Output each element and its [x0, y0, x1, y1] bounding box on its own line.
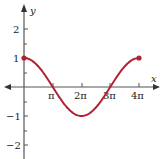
x-axis-label: x: [151, 73, 157, 84]
x-axis-right-arrow-icon: [153, 84, 160, 90]
x-tick-label-2pi: 2π: [74, 90, 87, 101]
chart: y x 2 1 −1 −2 π 2π 3π 4π: [0, 0, 162, 159]
start-point-marker: [21, 55, 26, 60]
y-tick-label-neg2: −2: [6, 140, 21, 151]
y-axis-label: y: [29, 5, 36, 16]
y-tick-label-neg1: −1: [6, 111, 21, 122]
y-tick-label-1: 1: [13, 53, 19, 64]
y-tick-label-2: 2: [13, 24, 19, 35]
x-tick-label-pi: π: [48, 90, 55, 101]
y-axis-arrow-icon: [21, 4, 27, 12]
x-axis-left-arrow-icon: [4, 84, 11, 90]
x-tick-label-4pi: 4π: [131, 90, 144, 101]
end-point-marker: [136, 55, 141, 60]
